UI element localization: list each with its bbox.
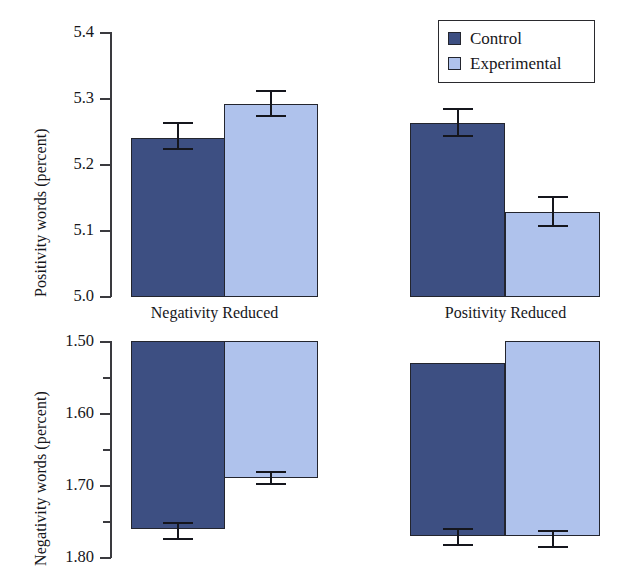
errorbar-cap-lower (443, 135, 473, 137)
errorbar-bottom-right-control (443, 528, 473, 546)
errorbar-stem (177, 122, 179, 150)
y-tick-bottom-1-60 (100, 413, 111, 415)
bar-top-right-control (410, 123, 505, 297)
errorbar-stem (457, 108, 459, 137)
legend: Control Experimental (438, 20, 595, 83)
figure-bar-chart: Control Experimental Positivity words (p… (0, 0, 619, 574)
errorbar-cap-upper (443, 528, 473, 530)
y-tick-bottom-1-75-minor (103, 521, 111, 523)
errorbar-cap-lower (256, 115, 286, 117)
y-tick-top-5-1 (100, 230, 111, 232)
y-tick-label-bottom-1-60: 1.60 (38, 403, 94, 423)
bar-bottom-right-control (410, 363, 505, 536)
errorbar-cap-lower (538, 225, 568, 227)
errorbar-top-right-control (443, 108, 473, 137)
y-tick-label-top-5-4: 5.4 (48, 22, 94, 42)
panel-label-right-top: Positivity Reduced (398, 304, 613, 322)
y-tick-bottom-1-80 (100, 557, 111, 559)
y-tick-label-bottom-1-70: 1.70 (38, 475, 94, 495)
y-tick-bottom-1-70 (100, 485, 111, 487)
y-tick-bottom-1-55-minor (103, 377, 111, 379)
errorbar-top-left-control (163, 122, 193, 150)
y-tick-label-bottom-1-80: 1.80 (38, 547, 94, 567)
legend-swatch-control-icon (448, 32, 461, 45)
errorbar-cap-upper (163, 522, 193, 524)
errorbar-cap-upper (538, 196, 568, 198)
errorbar-stem (270, 90, 272, 117)
errorbar-cap-lower (443, 544, 473, 546)
errorbar-cap-upper (538, 530, 568, 532)
errorbar-cap-upper (163, 122, 193, 124)
y-tick-bottom-1-65-minor (103, 449, 111, 451)
errorbar-bottom-left-control (163, 522, 193, 540)
y-tick-label-bottom-1-50: 1.50 (38, 331, 94, 351)
y-tick-top-5-4 (100, 32, 111, 34)
legend-label-control: Control (470, 30, 522, 47)
errorbar-top-right-experimental (538, 196, 568, 227)
errorbar-cap-upper (256, 471, 286, 473)
errorbar-bottom-right-experimental (538, 530, 568, 548)
y-tick-label-top-5-1: 5.1 (48, 220, 94, 240)
errorbar-cap-upper (443, 108, 473, 110)
errorbar-top-left-experimental (256, 90, 286, 117)
y-tick-label-top-5-2: 5.2 (48, 154, 94, 174)
panel-label-left-top: Negativity Reduced (107, 304, 322, 322)
bar-bottom-left-experimental (224, 341, 318, 478)
y-tick-top-5-3 (100, 98, 111, 100)
errorbar-cap-lower (163, 148, 193, 150)
errorbar-cap-lower (163, 538, 193, 540)
bar-top-left-experimental (224, 104, 318, 297)
y-tick-top-5-0 (100, 296, 111, 298)
legend-swatch-experimental-icon (448, 57, 461, 70)
errorbar-stem (552, 196, 554, 227)
legend-item-control: Control (448, 26, 582, 51)
legend-label-experimental: Experimental (470, 55, 562, 72)
bar-top-left-control (131, 138, 225, 297)
errorbar-cap-upper (256, 90, 286, 92)
y-tick-label-top-5-3: 5.3 (48, 88, 94, 108)
y-tick-bottom-1-50 (100, 341, 111, 343)
errorbar-cap-lower (256, 483, 286, 485)
errorbar-bottom-left-experimental (256, 471, 286, 485)
bar-bottom-right-experimental (505, 341, 600, 536)
legend-item-experimental: Experimental (448, 51, 582, 76)
y-tick-top-5-2 (100, 164, 111, 166)
y-tick-label-top-5-0: 5.0 (48, 286, 94, 306)
errorbar-cap-lower (538, 546, 568, 548)
bar-bottom-left-control (131, 341, 225, 529)
